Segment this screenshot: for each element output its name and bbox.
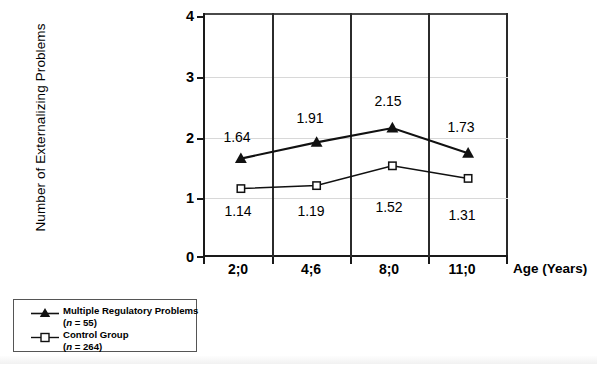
- legend-label-control-group: Control Group (n = 264): [63, 329, 129, 352]
- chart-legend: Multiple Regulatory Problems (n = 55) Co…: [13, 299, 197, 352]
- marker-control-0: [237, 185, 244, 192]
- legend-series-name-2: Control Group: [63, 329, 129, 340]
- legend-item-multiple-regulatory-problems: Multiple Regulatory Problems (n = 55): [14, 306, 196, 330]
- data-label-control-2: 1.52: [363, 199, 415, 215]
- legend-n-1: (n = 55): [63, 317, 97, 328]
- legend-item-control-group: Control Group (n = 264): [14, 330, 196, 354]
- legend-key-open-square-icon: [30, 330, 60, 350]
- data-label-treatment-2: 2.15: [362, 93, 414, 109]
- data-label-control-1: 1.19: [285, 203, 337, 219]
- legend-key-filled-triangle-icon: [30, 306, 60, 326]
- legend-series-name-1: Multiple Regulatory Problems: [63, 305, 198, 316]
- data-label-treatment-0: 1.64: [211, 129, 263, 145]
- chart-figure: Number of Externalizing Problems 4 3 2 1…: [0, 0, 597, 368]
- legend-n-2: (n = 264): [63, 341, 102, 352]
- marker-control-1: [313, 182, 320, 189]
- line-control-group: [241, 166, 468, 189]
- page-edge-artifact: [0, 356, 597, 364]
- data-label-control-0: 1.14: [212, 203, 264, 219]
- marker-control-3: [464, 175, 471, 182]
- data-label-treatment-3: 1.73: [435, 119, 487, 135]
- marker-treatment-2: [386, 122, 398, 133]
- data-label-treatment-1: 1.91: [284, 110, 336, 126]
- legend-label-multiple-regulatory-problems: Multiple Regulatory Problems (n = 55): [63, 305, 198, 328]
- data-label-control-3: 1.31: [436, 207, 488, 223]
- marker-control-2: [389, 162, 396, 169]
